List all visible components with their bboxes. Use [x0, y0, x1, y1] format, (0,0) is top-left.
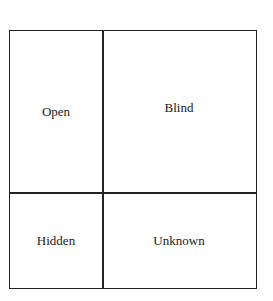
- quadrant-blind: Blind: [103, 27, 255, 188]
- quadrant-hidden: Hidden: [10, 194, 102, 287]
- quadrant-label: Unknown: [153, 233, 204, 249]
- quadrant-open: Open: [10, 31, 102, 192]
- quadrant-label: Blind: [165, 100, 194, 116]
- quadrant-label: Open: [42, 104, 70, 120]
- quadrant-unknown: Unknown: [103, 194, 255, 287]
- johari-window-grid: Open Blind Hidden Unknown: [9, 30, 257, 289]
- quadrant-label: Hidden: [37, 233, 75, 249]
